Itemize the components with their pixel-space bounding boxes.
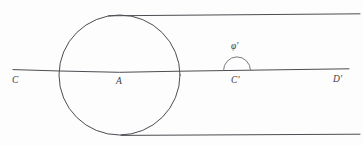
label-point-c-prime: C' — [231, 76, 240, 86]
upper-parallel-line — [109, 14, 361, 16]
geometry-diagram-canvas — [0, 0, 363, 146]
angle-arc — [223, 57, 250, 71]
label-point-a: A — [116, 77, 122, 87]
label-angle-phi-prime: φ' — [231, 42, 238, 52]
label-point-d-prime: D' — [333, 75, 342, 85]
figure-root: C A C' D' φ' — [0, 0, 363, 146]
circle — [59, 15, 180, 135]
lower-parallel-line — [121, 134, 360, 135]
axis-line — [13, 69, 349, 73]
label-point-c: C — [12, 76, 19, 86]
